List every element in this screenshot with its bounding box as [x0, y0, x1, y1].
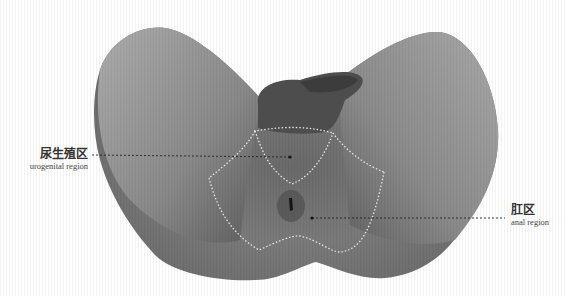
label-anal-en: anal region [511, 218, 549, 227]
label-urogenital-zh: 尿生殖区 [32, 148, 88, 160]
anus-mark [277, 190, 305, 222]
label-urogenital-en: urogenital region [12, 162, 88, 171]
label-anal-region: 肛区 anal region [511, 204, 549, 227]
label-urogenital-region: 尿生殖区 urogenital region [32, 148, 88, 171]
label-anal-zh: 肛区 [511, 204, 549, 216]
